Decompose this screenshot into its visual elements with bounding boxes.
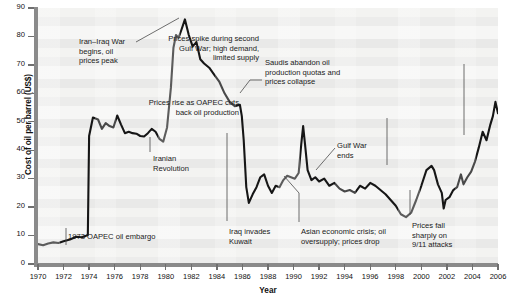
x-tick-mark bbox=[114, 264, 115, 270]
y-tick-mark bbox=[28, 64, 34, 65]
annotation-gulf-war-ends: Gulf War ends bbox=[337, 141, 367, 160]
x-tick: 1990 bbox=[293, 264, 294, 270]
x-tick: 1992 bbox=[318, 264, 319, 270]
y-tick-mark bbox=[28, 121, 34, 122]
y-tick-label: 10 bbox=[17, 229, 25, 238]
x-tick-mark bbox=[88, 264, 89, 270]
x-tick: 1988 bbox=[267, 264, 268, 270]
y-tick-mark bbox=[28, 263, 34, 264]
y-tick-mark bbox=[28, 93, 34, 94]
x-tick-mark bbox=[446, 264, 447, 270]
x-tick-mark bbox=[370, 264, 371, 270]
x-tick: 1982 bbox=[191, 264, 192, 270]
y-tick-mark bbox=[28, 178, 34, 179]
x-tick-mark bbox=[216, 264, 217, 270]
x-tick: 1978 bbox=[140, 264, 141, 270]
oil-price-chart-figure: Cost of oil per barrel (US$) Year 010203… bbox=[0, 0, 515, 299]
x-tick-label: 1988 bbox=[260, 272, 277, 281]
x-tick-mark bbox=[165, 264, 166, 270]
x-tick-mark bbox=[267, 264, 268, 270]
annotation-oapec-cuts-production: Prices rise as OAPEC cuts back oil produ… bbox=[149, 98, 239, 117]
annotation-iran-iraq-war: Iran–Iraq War begins, oil prices peak bbox=[79, 37, 125, 66]
y-tick-label: 20 bbox=[17, 201, 25, 210]
y-tick-mark bbox=[28, 36, 34, 37]
annotation-iraq-invades-kuwait: Iraq invades Kuwait bbox=[229, 227, 270, 246]
x-tick-label: 1998 bbox=[387, 272, 404, 281]
x-tick-mark bbox=[497, 264, 498, 270]
x-tick: 2000 bbox=[421, 264, 422, 270]
x-tick-label: 1984 bbox=[209, 272, 226, 281]
x-tick-label: 2000 bbox=[413, 272, 430, 281]
x-tick-mark bbox=[472, 264, 473, 270]
x-tick-label: 1974 bbox=[81, 272, 98, 281]
x-tick-label: 1986 bbox=[234, 272, 251, 281]
y-tick-label: 90 bbox=[17, 2, 25, 11]
x-tick-mark bbox=[344, 264, 345, 270]
y-tick: 10 bbox=[28, 235, 34, 236]
x-tick-label: 1976 bbox=[106, 272, 123, 281]
x-tick-mark bbox=[318, 264, 319, 270]
y-tick: 80 bbox=[28, 36, 34, 37]
x-tick-label: 1990 bbox=[285, 272, 302, 281]
x-tick: 2006 bbox=[497, 264, 498, 270]
x-tick-mark bbox=[191, 264, 192, 270]
x-tick: 1986 bbox=[242, 264, 243, 270]
x-tick-label: 1970 bbox=[30, 272, 47, 281]
x-tick: 1976 bbox=[114, 264, 115, 270]
y-axis-spine bbox=[34, 7, 38, 265]
x-tick-label: 2004 bbox=[464, 272, 481, 281]
y-tick: 0 bbox=[28, 263, 34, 264]
y-tick: 70 bbox=[28, 64, 34, 65]
x-tick-mark bbox=[242, 264, 243, 270]
x-tick: 1972 bbox=[63, 264, 64, 270]
annotation-saudis-abandon-quotas: Saudis abandon oil production quotas and… bbox=[265, 58, 340, 87]
annotation-oapec-embargo-1973: 1973 OAPEC oil embargo bbox=[68, 232, 155, 242]
x-tick: 1994 bbox=[344, 264, 345, 270]
y-tick-label: 70 bbox=[17, 59, 25, 68]
y-tick-mark bbox=[28, 150, 34, 151]
annotation-iranian-revolution: Iranian Revolution bbox=[153, 154, 189, 173]
y-tick: 40 bbox=[28, 150, 34, 151]
x-tick-label: 1972 bbox=[55, 272, 72, 281]
y-tick-label: 60 bbox=[17, 87, 25, 96]
y-tick: 90 bbox=[28, 7, 34, 8]
x-tick-mark bbox=[293, 264, 294, 270]
annotation-nine-eleven-attacks: Prices fall sharply on 9/11 attacks bbox=[412, 221, 452, 250]
y-tick-mark bbox=[28, 7, 34, 8]
y-tick-mark bbox=[28, 206, 34, 207]
y-tick-label: 0 bbox=[21, 258, 25, 267]
x-tick-label: 1980 bbox=[157, 272, 174, 281]
x-tick: 1984 bbox=[216, 264, 217, 270]
x-tick-mark bbox=[421, 264, 422, 270]
x-tick-label: 1994 bbox=[336, 272, 353, 281]
x-tick: 1970 bbox=[37, 264, 38, 270]
x-tick: 1996 bbox=[370, 264, 371, 270]
x-axis-spine bbox=[34, 263, 498, 267]
annotation-asian-economic-crisis: Asian economic crisis; oil oversupply; p… bbox=[301, 227, 386, 246]
x-tick: 1980 bbox=[165, 264, 166, 270]
x-tick-label: 1996 bbox=[362, 272, 379, 281]
x-tick: 2004 bbox=[472, 264, 473, 270]
y-tick-label: 80 bbox=[17, 30, 25, 39]
y-tick-label: 50 bbox=[17, 116, 25, 125]
x-tick-mark bbox=[140, 264, 141, 270]
y-tick: 30 bbox=[28, 178, 34, 179]
y-tick: 60 bbox=[28, 93, 34, 94]
x-tick-label: 1978 bbox=[132, 272, 149, 281]
x-axis-title: Year bbox=[38, 286, 498, 295]
x-tick-mark bbox=[395, 264, 396, 270]
x-tick-mark bbox=[63, 264, 64, 270]
x-tick-label: 1982 bbox=[183, 272, 200, 281]
x-tick-label: 1992 bbox=[311, 272, 328, 281]
x-tick: 2002 bbox=[446, 264, 447, 270]
y-tick: 20 bbox=[28, 206, 34, 207]
y-tick-label: 30 bbox=[17, 172, 25, 181]
x-tick-label: 2006 bbox=[490, 272, 507, 281]
x-tick-mark bbox=[37, 264, 38, 270]
y-tick: 50 bbox=[28, 121, 34, 122]
x-tick-label: 2002 bbox=[439, 272, 456, 281]
x-tick: 1998 bbox=[395, 264, 396, 270]
x-tick: 1974 bbox=[88, 264, 89, 270]
y-tick-label: 40 bbox=[17, 144, 25, 153]
y-tick-mark bbox=[28, 235, 34, 236]
